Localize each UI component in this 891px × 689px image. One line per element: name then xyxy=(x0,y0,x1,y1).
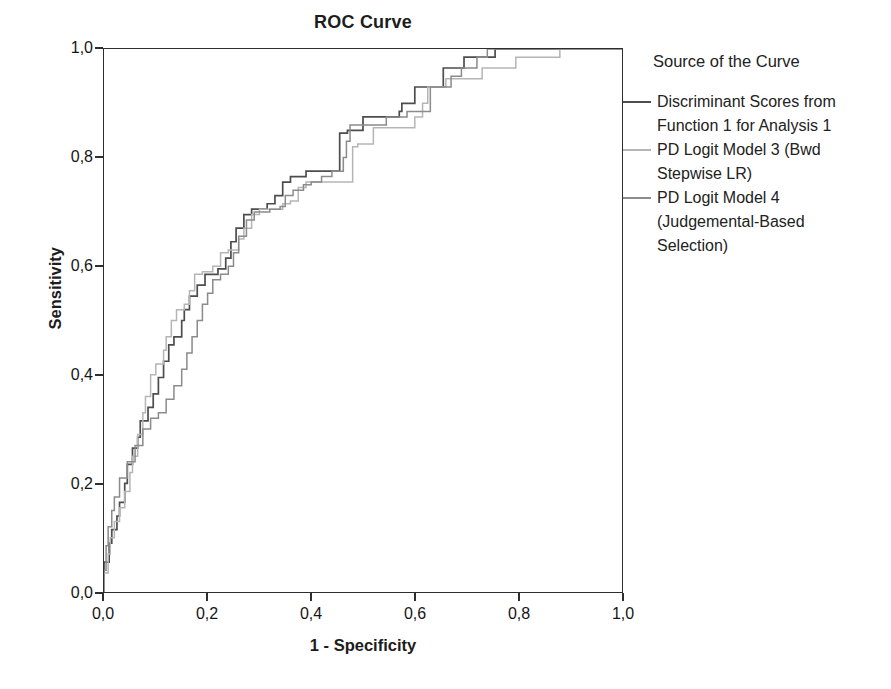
x-axis-tick xyxy=(102,593,103,601)
y-axis-tick-label: 0,6 xyxy=(59,257,93,275)
legend-item-2: PD Logit Model 3 (BwdStepwise LR) xyxy=(623,138,885,186)
y-axis-tick-label: 0,4 xyxy=(59,366,93,384)
x-axis-tick-label: 1,0 xyxy=(603,605,643,623)
y-axis-tick-label: 0,8 xyxy=(59,148,93,166)
plot-area xyxy=(103,48,623,593)
y-axis-tick-label: 1,0 xyxy=(59,39,93,57)
y-axis-tick-label: 0,0 xyxy=(59,584,93,602)
legend-item-label: Discriminant Scores fromFunction 1 for A… xyxy=(657,90,836,138)
legend-title: Source of the Curve xyxy=(653,52,800,71)
y-axis-tick xyxy=(95,47,103,48)
legend-line-sample-icon xyxy=(623,197,651,199)
legend-item-3: PD Logit Model 4(Judgemental-BasedSelect… xyxy=(623,186,885,258)
x-axis-tick-label: 0,4 xyxy=(291,605,331,623)
x-axis-tick-label: 0,2 xyxy=(187,605,227,623)
roc-curve-series-1 xyxy=(104,49,622,592)
x-axis-title: 1 - Specificity xyxy=(103,636,623,655)
roc-curves-svg xyxy=(104,49,622,592)
y-axis-tick xyxy=(95,483,103,484)
x-axis-tick xyxy=(414,593,415,601)
legend-item-label: PD Logit Model 4(Judgemental-BasedSelect… xyxy=(657,186,805,258)
chart-title: ROC Curve xyxy=(103,12,623,33)
y-axis-tick xyxy=(95,156,103,157)
legend-item-1: Discriminant Scores fromFunction 1 for A… xyxy=(623,90,885,138)
y-axis-tick xyxy=(95,374,103,375)
legend-items: Discriminant Scores fromFunction 1 for A… xyxy=(623,90,885,258)
x-axis-tick-label: 0,0 xyxy=(83,605,123,623)
x-axis-tick xyxy=(206,593,207,601)
x-axis-tick xyxy=(310,593,311,601)
x-axis-tick xyxy=(622,593,623,601)
y-axis-tick xyxy=(95,265,103,266)
x-axis-tick xyxy=(518,593,519,601)
legend-line-sample-icon xyxy=(623,149,651,151)
y-axis-tick-label: 0,2 xyxy=(59,475,93,493)
legend-item-label: PD Logit Model 3 (BwdStepwise LR) xyxy=(657,138,821,186)
legend-line-sample-icon xyxy=(623,101,651,103)
x-axis-tick-label: 0,8 xyxy=(499,605,539,623)
x-axis-tick-label: 0,6 xyxy=(395,605,435,623)
